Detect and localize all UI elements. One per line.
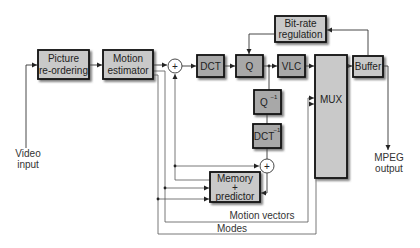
dct-inverse-superscript: −1 [274, 127, 282, 133]
mux-label: MUX [320, 94, 343, 105]
q-inverse-superscript: −1 [271, 94, 279, 100]
bitrate-regulation-label-2: regulation [279, 29, 323, 40]
adder2-to-memory-line [261, 173, 267, 193]
regulation-to-q-line [249, 34, 274, 54]
picture-reordering-label-1: Picture [48, 53, 80, 64]
mpeg-output-label-1: MPEG [374, 152, 404, 163]
adder-main-symbol: + [172, 61, 178, 72]
buffer-label: Buffer [355, 61, 382, 72]
modes-label: Modes [217, 223, 247, 234]
picture-reordering-label-2: re-ordering [39, 65, 88, 76]
video-input-label-2: input [17, 159, 39, 170]
q-label: Q [246, 61, 254, 72]
predictor-to-adder-line [175, 74, 210, 180]
mux-block [315, 55, 347, 178]
video-input-line [26, 65, 37, 148]
diagram-svg: Picture re-ordering Motion estimator + D… [0, 0, 420, 248]
video-input-label-1: Video [15, 148, 41, 159]
motion-vectors-label: Motion vectors [229, 210, 294, 221]
q-inverse-label: Q [260, 97, 268, 108]
motion-estimator-label-1: Motion [113, 53, 143, 64]
vlc-label: VLC [282, 61, 301, 72]
mpeg-encoder-diagram: Picture re-ordering Motion estimator + D… [0, 0, 420, 248]
memory-predictor-label-3: predictor [216, 191, 256, 202]
motion-estimator-label-2: estimator [107, 65, 149, 76]
bitrate-regulation-label-1: Bit-rate [284, 18, 317, 29]
buffer-to-output-line [384, 66, 388, 150]
dct-label: DCT [200, 61, 221, 72]
mpeg-output-label-2: output [375, 163, 403, 174]
adder-reconstruct-symbol: + [264, 161, 270, 172]
dct-inverse-label: DCT [254, 131, 275, 142]
buffer-to-regulation-line [327, 30, 368, 55]
